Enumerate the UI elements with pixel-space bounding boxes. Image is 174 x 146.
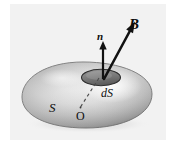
label-magnetic-field: B [129, 17, 139, 32]
figure-canvas [0, 0, 174, 146]
label-surface: S [49, 101, 56, 114]
figure-root: B n dS S O [0, 0, 174, 146]
label-normal-vector: n [97, 31, 103, 42]
label-surface-element: dS [101, 87, 113, 99]
surface-element-patch [82, 69, 121, 85]
label-origin: O [76, 110, 85, 122]
